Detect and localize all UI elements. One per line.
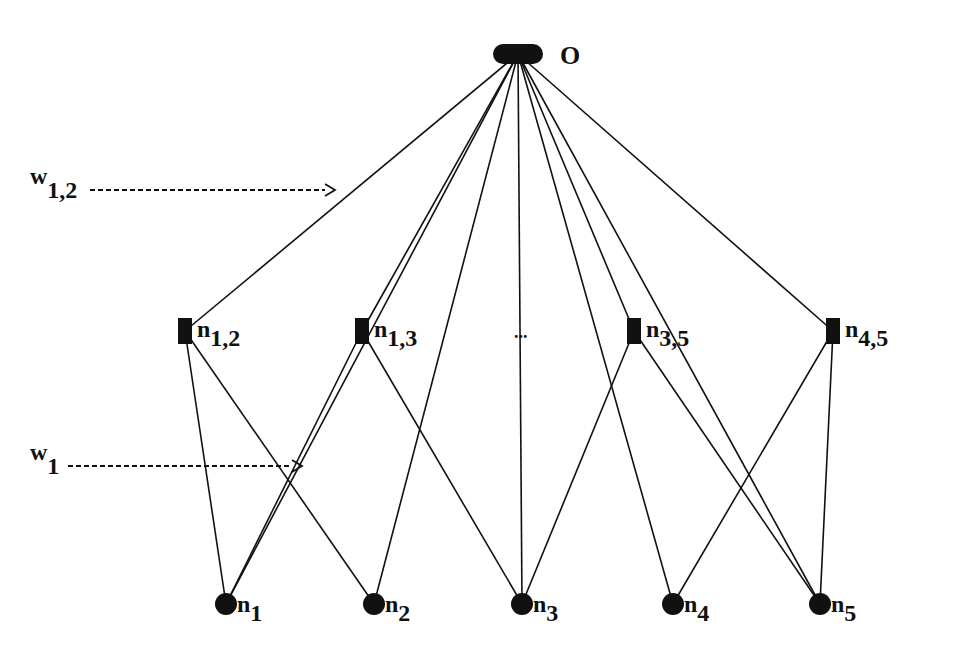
input-node-label-n2: n2 [385,591,410,626]
pair-node-n45 [826,318,840,344]
input-node-n2 [363,593,385,615]
edge-n45-n5 [820,331,833,604]
output-node-label: O [560,41,580,70]
arrowhead-icon [325,184,335,196]
input-node-n4 [662,593,684,615]
edge-O-n13 [362,54,518,331]
pair-node-n12 [178,318,192,344]
input-node-n3 [511,593,533,615]
labels-layer: On1,2n1,3n3,5n4,5...n1n2n3n4n5w1,2w1 [30,41,888,626]
weight-label-w12: w1,2 [30,163,77,203]
edge-O-n35 [518,54,634,331]
ellipsis: ... [514,322,528,342]
input-node-label-n3: n3 [533,591,558,626]
pair-node-n35 [627,318,641,344]
edge-n35-n3 [522,331,634,604]
input-node-label-n5: n5 [831,591,856,626]
edge-O-n45 [518,54,833,331]
edge-n13-n3 [362,331,522,604]
pair-node-label-n13: n1,3 [374,316,417,351]
pair-node-label-n12: n1,2 [197,316,240,351]
network-diagram: On1,2n1,3n3,5n4,5...n1n2n3n4n5w1,2w1 [0,0,953,658]
input-node-label-n4: n4 [684,591,709,626]
edge-n13-n1 [226,331,362,604]
input-node-n5 [809,593,831,615]
pair-node-n13 [355,318,369,344]
pair-node-label-n35: n3,5 [646,316,689,351]
edge-O-n12 [185,54,518,331]
input-node-label-n1: n1 [237,591,262,626]
pair-node-label-n45: n4,5 [845,316,888,351]
edge-n12-n1 [185,331,226,604]
input-node-n1 [215,593,237,615]
edges-layer [185,54,833,604]
nodes-layer [178,44,840,615]
output-node [493,44,543,64]
weight-label-w1: w1 [30,439,59,479]
edge-n45-n4 [673,331,833,604]
edge-n12-n2 [185,331,374,604]
